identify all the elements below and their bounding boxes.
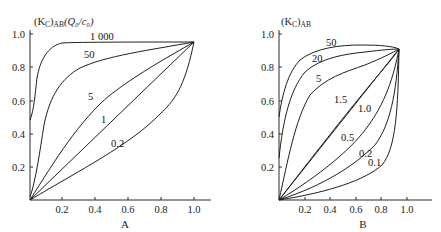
curve-label-b-20: 20 <box>312 53 323 64</box>
curve-label-b-1.0: 1.0 <box>358 103 371 114</box>
x-tick-label: 0.4 <box>88 204 102 215</box>
y-tick-label: 1.0 <box>261 29 274 40</box>
x-tick-label: 0.4 <box>323 204 337 215</box>
curve-label-a-1: 1 <box>101 114 106 125</box>
y-tick-label: 0.2 <box>12 162 25 173</box>
chart-a: 0.2 0.4 0.6 0.8 1.0 0.2 0.4 0.6 0.8 1.0 … <box>12 16 211 230</box>
y-tick-label: 0.6 <box>261 96 274 107</box>
figure: 0.2 0.4 0.6 0.8 1.0 0.2 0.4 0.6 0.8 1.0 … <box>0 0 441 232</box>
curve-label-b-0.1: 0.1 <box>368 157 381 168</box>
y-tick-label: 0.8 <box>12 62 25 73</box>
x-tick-label: 1.0 <box>187 204 200 215</box>
curve-label-b-5: 5 <box>316 73 321 84</box>
curve-label-a-0.2: 0.2 <box>111 138 124 149</box>
x-tick-label: 0.6 <box>349 204 362 215</box>
x-tick-label: 0.8 <box>154 204 167 215</box>
y-tick-label: 0.4 <box>12 129 26 140</box>
x-tick-label: 0.2 <box>55 204 68 215</box>
y-tick-label: 0.6 <box>12 96 25 107</box>
chart-b-y-title: (KC)AB <box>281 16 311 29</box>
curve-label-a-50: 50 <box>84 49 95 60</box>
y-tick-label: 0.4 <box>261 129 275 140</box>
chart-a-y-title: (KC)AB(Q₀/c₀) <box>34 16 94 29</box>
curve-label-b-1.5: 1.5 <box>334 94 347 105</box>
curve-label-a-5: 5 <box>88 91 93 102</box>
x-tick-label: 0.8 <box>374 204 387 215</box>
y-tick-label: 1.0 <box>12 29 25 40</box>
chart-a-x-label: A <box>121 218 129 230</box>
curve-label-b-0.5: 0.5 <box>341 132 354 143</box>
curve-a-1000 <box>30 42 194 120</box>
chart-b: 0.2 0.4 0.6 0.8 1.0 0.2 0.4 0.6 0.8 1.0 … <box>261 16 432 230</box>
x-tick-label: 0.2 <box>298 204 311 215</box>
y-tick-label: 0.8 <box>261 62 274 73</box>
chart-b-x-label: B <box>359 218 366 230</box>
x-tick-label: 0.6 <box>121 204 134 215</box>
curve-a-1 <box>30 42 194 200</box>
x-tick-label: 1.0 <box>400 204 413 215</box>
curve-label-a-1000: 1 000 <box>90 31 114 42</box>
curve-label-b-50: 50 <box>326 37 337 48</box>
y-tick-label: 0.2 <box>261 162 274 173</box>
